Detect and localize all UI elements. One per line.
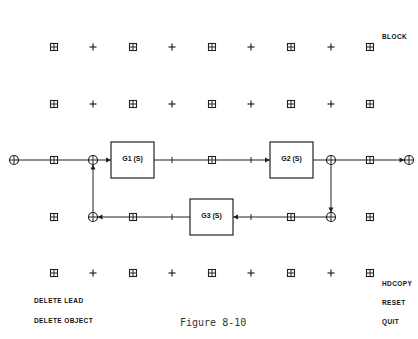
grid-plus-marker-icon[interactable] xyxy=(169,101,176,108)
grid-box-marker-icon[interactable] xyxy=(288,101,295,108)
block-label-g1: G1 (S) xyxy=(111,155,154,162)
grid-plus-marker-icon[interactable] xyxy=(90,270,97,277)
menu-quit[interactable]: QUIT xyxy=(382,318,399,325)
arrowhead-icon xyxy=(329,208,334,213)
grid-plus-marker-icon[interactable] xyxy=(90,44,97,51)
arrowhead-icon xyxy=(400,158,405,163)
grid-box-marker-icon[interactable] xyxy=(367,270,374,277)
grid-box-marker-icon[interactable] xyxy=(51,270,58,277)
branch-node-icon[interactable] xyxy=(327,213,336,222)
takeoff-point-icon[interactable] xyxy=(327,156,336,165)
arrowhead-icon xyxy=(91,165,96,170)
grid-plus-marker-icon[interactable] xyxy=(248,270,255,277)
menu-delete-object[interactable]: DELETE OBJECT xyxy=(34,317,93,324)
grid-plus-marker-icon[interactable] xyxy=(169,44,176,51)
block-diagram-editor: G1 (S)G2 (S)G3 (S) BLOCK HDCOPY RESET QU… xyxy=(0,0,418,339)
grid-plus-marker-icon[interactable] xyxy=(328,270,335,277)
menu-hdcopy[interactable]: HDCOPY xyxy=(382,280,412,287)
grid-box-marker-icon[interactable] xyxy=(367,101,374,108)
grid-box-marker-icon[interactable] xyxy=(51,101,58,108)
grid-box-marker-icon[interactable] xyxy=(51,44,58,51)
grid-box-marker-icon[interactable] xyxy=(288,214,295,221)
output-node-icon[interactable] xyxy=(405,156,414,165)
grid-box-marker-icon[interactable] xyxy=(51,214,58,221)
figure-caption: Figure 8-10 xyxy=(180,317,246,328)
diagram-canvas[interactable] xyxy=(0,0,418,339)
grid-box-marker-icon[interactable] xyxy=(130,101,137,108)
grid-box-marker-icon[interactable] xyxy=(51,157,58,164)
grid-box-marker-icon[interactable] xyxy=(367,44,374,51)
input-node-icon[interactable] xyxy=(10,156,19,165)
grid-box-marker-icon[interactable] xyxy=(209,270,216,277)
block-label-g3: G3 (S) xyxy=(190,212,233,219)
grid-plus-marker-icon[interactable] xyxy=(328,44,335,51)
grid-box-marker-icon[interactable] xyxy=(367,157,374,164)
summing-junction-icon[interactable] xyxy=(89,156,98,165)
grid-box-marker-icon[interactable] xyxy=(367,214,374,221)
grid-box-marker-icon[interactable] xyxy=(130,270,137,277)
menu-reset[interactable]: RESET xyxy=(382,299,406,306)
grid-plus-marker-icon[interactable] xyxy=(248,44,255,51)
grid-box-marker-icon[interactable] xyxy=(209,44,216,51)
grid-plus-marker-icon[interactable] xyxy=(328,101,335,108)
arrowhead-icon xyxy=(233,215,238,220)
arrowhead-icon xyxy=(98,215,103,220)
grid-box-marker-icon[interactable] xyxy=(130,214,137,221)
menu-block[interactable]: BLOCK xyxy=(382,33,407,40)
block-label-g2: G2 (S) xyxy=(270,155,313,162)
grid-box-marker-icon[interactable] xyxy=(130,44,137,51)
grid-plus-marker-icon[interactable] xyxy=(90,101,97,108)
grid-box-marker-icon[interactable] xyxy=(209,157,216,164)
grid-box-marker-icon[interactable] xyxy=(288,44,295,51)
feedback-node-icon[interactable] xyxy=(89,213,98,222)
grid-box-marker-icon[interactable] xyxy=(288,270,295,277)
grid-plus-marker-icon[interactable] xyxy=(248,101,255,108)
menu-delete-lead[interactable]: DELETE LEAD xyxy=(34,297,84,304)
grid-plus-marker-icon[interactable] xyxy=(169,270,176,277)
grid-box-marker-icon[interactable] xyxy=(209,101,216,108)
